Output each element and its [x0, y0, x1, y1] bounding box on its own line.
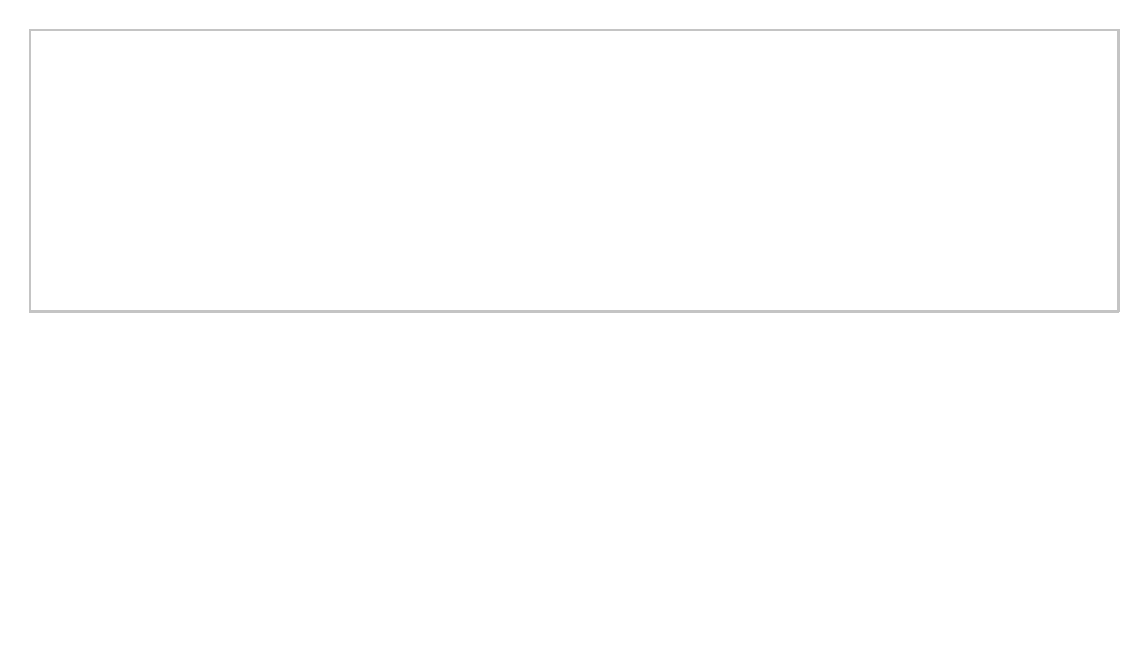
- connectors: [0, 0, 1147, 656]
